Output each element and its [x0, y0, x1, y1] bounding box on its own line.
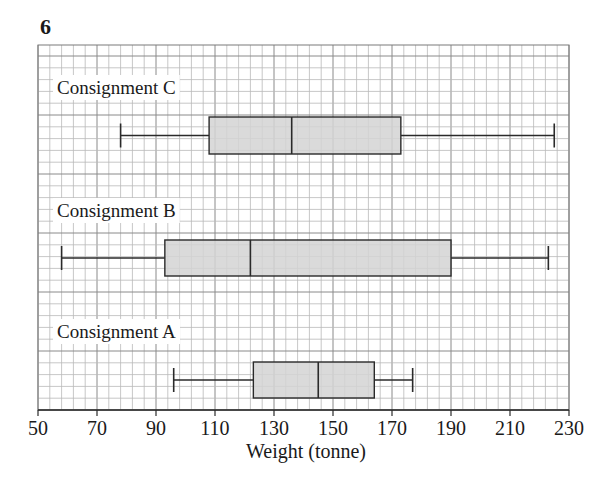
box-plots [62, 117, 555, 398]
x-tick-label: 210 [495, 417, 525, 439]
iqr-box [165, 240, 451, 276]
box-plot-consignment-a [174, 362, 413, 398]
iqr-box [253, 362, 374, 398]
series-label: Consignment A [57, 321, 176, 342]
x-tick-label: 230 [554, 417, 584, 439]
x-tick-label: 90 [146, 417, 166, 439]
box-plot-consignment-b [62, 240, 549, 276]
x-tick-label: 110 [200, 417, 229, 439]
box-plot-chart: Consignment CConsignment BConsignment A … [0, 0, 612, 487]
x-tick-label: 150 [318, 417, 348, 439]
x-tick-label: 170 [377, 417, 407, 439]
series-label: Consignment B [57, 200, 176, 221]
series-label: Consignment C [57, 77, 176, 98]
x-tick-label: 50 [28, 417, 48, 439]
x-tick-label: 130 [259, 417, 289, 439]
x-axis-title: Weight (tonne) [0, 440, 612, 463]
iqr-box [209, 117, 401, 154]
box-plot-consignment-c [121, 117, 555, 154]
x-tick-label: 70 [87, 417, 107, 439]
x-tick-label: 190 [436, 417, 466, 439]
x-axis: 507090110130150170190210230 [28, 410, 584, 439]
